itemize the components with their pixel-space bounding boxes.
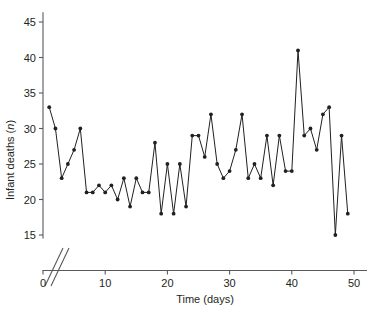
series-line (49, 50, 348, 235)
axis-break-icon (45, 248, 69, 286)
data-point (72, 148, 76, 152)
data-point (203, 155, 207, 159)
data-point (259, 176, 263, 180)
data-point (110, 183, 114, 187)
x-tick-label-10: 10 (99, 277, 111, 289)
data-point (277, 134, 281, 138)
y-tick-label-25: 25 (24, 158, 36, 170)
y-axis-title-prefix: Infant deaths ( (4, 129, 16, 200)
line-chart: 15202530354045 01020304050 Time (days) I… (0, 0, 378, 316)
data-point (159, 212, 163, 216)
data-point (97, 183, 101, 187)
y-axis-title: Infant deaths (n) (4, 120, 16, 200)
y-tick-label-35: 35 (24, 87, 36, 99)
y-tick-label-15: 15 (24, 229, 36, 241)
data-point (178, 162, 182, 166)
data-point (153, 141, 157, 145)
data-point (215, 162, 219, 166)
y-axis: 15202530354045 (24, 13, 43, 241)
data-point (60, 176, 64, 180)
data-point (302, 134, 306, 138)
data-point (91, 191, 95, 195)
data-point (240, 112, 244, 116)
y-tick-label-45: 45 (24, 16, 36, 28)
x-axis-tick-labels: 01020304050 (40, 277, 360, 289)
data-point (128, 205, 132, 209)
data-point (54, 127, 58, 131)
data-point (234, 148, 238, 152)
x-tick-label-50: 50 (348, 277, 360, 289)
x-tick-label-20: 20 (161, 277, 173, 289)
data-point (315, 148, 319, 152)
data-point (333, 233, 337, 237)
x-axis-title: Time (days) (176, 293, 234, 305)
y-tick-label-30: 30 (24, 123, 36, 135)
data-series-infant-deaths (47, 49, 349, 237)
data-point (103, 191, 107, 195)
data-point (265, 134, 269, 138)
x-tick-label-0: 0 (40, 277, 46, 289)
data-point (78, 127, 82, 131)
data-point (346, 212, 350, 216)
data-point (85, 191, 89, 195)
data-point (228, 169, 232, 173)
data-point (184, 205, 188, 209)
data-point (321, 112, 325, 116)
y-tick-label-20: 20 (24, 194, 36, 206)
data-point (66, 162, 70, 166)
data-point (122, 176, 126, 180)
data-point (309, 127, 313, 131)
data-point (197, 134, 201, 138)
series-markers (47, 49, 349, 237)
y-axis-ticks (39, 22, 43, 235)
data-point (340, 134, 344, 138)
data-point (116, 198, 120, 202)
data-point (290, 169, 294, 173)
data-point (134, 176, 138, 180)
data-point (246, 176, 250, 180)
data-point (166, 162, 170, 166)
chart-figure: 15202530354045 01020304050 Time (days) I… (0, 0, 378, 316)
data-point (221, 176, 225, 180)
x-axis-ticks (43, 271, 354, 275)
data-point (327, 105, 331, 109)
data-point (284, 169, 288, 173)
x-tick-label-30: 30 (223, 277, 235, 289)
y-axis-title-suffix: ) (4, 120, 16, 124)
data-point (141, 191, 145, 195)
data-point (172, 212, 176, 216)
data-point (253, 162, 257, 166)
data-point (296, 49, 300, 53)
data-point (209, 112, 213, 116)
y-axis-tick-labels: 15202530354045 (24, 16, 36, 241)
data-point (190, 134, 194, 138)
y-tick-label-40: 40 (24, 52, 36, 64)
data-point (271, 183, 275, 187)
x-tick-label-40: 40 (286, 277, 298, 289)
data-point (47, 105, 51, 109)
x-axis: 01020304050 (40, 271, 367, 289)
data-point (147, 191, 151, 195)
